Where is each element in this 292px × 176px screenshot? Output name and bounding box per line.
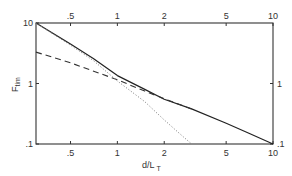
x-tick-label-bottom: 5 <box>224 148 229 158</box>
log-log-chart: .5.51122551010101.11.1 Ftim d/LT <box>0 0 292 176</box>
plot-frame <box>36 23 273 144</box>
axis-ticks: .5.51122551010101.11.1 <box>23 11 285 158</box>
plot-border <box>36 23 273 144</box>
series-solid-line <box>36 23 273 144</box>
y-tick-label-left: .1 <box>25 139 33 149</box>
y-tick-label-left: 10 <box>23 18 33 28</box>
data-series <box>36 23 273 144</box>
axis-labels: Ftim d/LT <box>10 77 162 172</box>
x-tick-label-bottom: .5 <box>67 148 75 158</box>
x-axis-label: d/LT <box>142 160 162 172</box>
x-tick-label-top: 5 <box>224 11 229 21</box>
x-tick-label-bottom: 1 <box>115 148 120 158</box>
y-axis-label: Ftim <box>10 77 21 92</box>
x-axis-label-main: d/L <box>142 160 155 170</box>
x-tick-label-bottom: 10 <box>268 148 278 158</box>
x-tick-label-top: 10 <box>268 11 278 21</box>
series-dashed-line <box>36 52 192 109</box>
y-tick-label-right: 1 <box>277 79 282 89</box>
x-tick-label-top: .5 <box>67 11 75 21</box>
y-tick-label-left: 1 <box>28 79 33 89</box>
x-tick-label-top: 2 <box>162 11 167 21</box>
x-axis-label-sub: T <box>157 165 162 172</box>
x-tick-label-top: 1 <box>115 11 120 21</box>
x-tick-label-bottom: 2 <box>162 148 167 158</box>
y-axis-label-sub: tim <box>14 77 21 87</box>
series-dotted-line <box>36 23 192 144</box>
y-tick-label-right: .1 <box>277 139 285 149</box>
